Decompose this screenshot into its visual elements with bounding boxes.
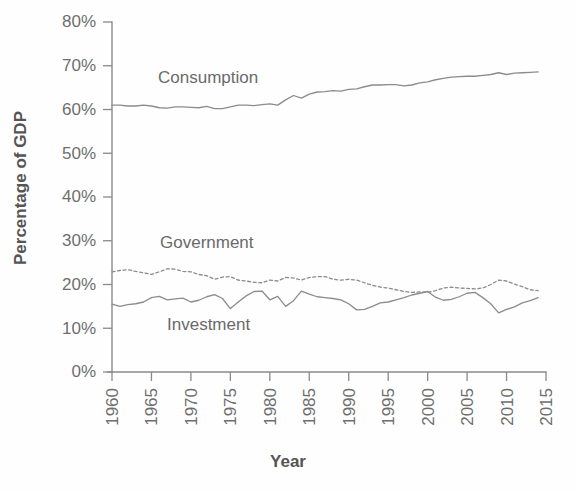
y-tick-label: 0% <box>71 362 96 381</box>
chart-figure: 0%10%20%30%40%50%60%70%80% 1960196519701… <box>0 0 576 491</box>
x-tick-label: 1965 <box>142 388 161 426</box>
x-tick-label: 2000 <box>419 388 438 426</box>
y-tick-label: 50% <box>62 144 96 163</box>
y-tick-label: 30% <box>62 231 96 250</box>
x-tick-label: 2010 <box>498 388 517 426</box>
y-tick-label: 80% <box>62 12 96 31</box>
x-axis-title: Year <box>270 452 306 471</box>
y-tick-label: 70% <box>62 56 96 75</box>
x-tick-label: 1975 <box>221 388 240 426</box>
x-tick-label: 1985 <box>300 388 319 426</box>
x-tick-label: 1995 <box>379 388 398 426</box>
x-tick-label: 1980 <box>261 388 280 426</box>
y-axis-title: Percentage of GDP <box>11 111 30 265</box>
gdp-components-line-chart: 0%10%20%30%40%50%60%70%80% 1960196519701… <box>0 0 576 491</box>
y-tick-label: 60% <box>62 100 96 119</box>
y-tick-label: 10% <box>62 319 96 338</box>
x-tick-label: 1990 <box>340 388 359 426</box>
y-tick-label: 40% <box>62 187 96 206</box>
series-annotation-investment: Investment <box>167 315 250 334</box>
series-annotation-government: Government <box>160 233 254 252</box>
series-annotation-consumption: Consumption <box>158 68 258 87</box>
x-tick-label: 1960 <box>103 388 122 426</box>
x-tick-label: 2005 <box>458 388 477 426</box>
y-tick-labels: 0%10%20%30%40%50%60%70%80% <box>62 12 96 381</box>
x-tick-label: 1970 <box>182 388 201 426</box>
y-tick-label: 20% <box>62 275 96 294</box>
x-tick-label: 2015 <box>537 388 556 426</box>
